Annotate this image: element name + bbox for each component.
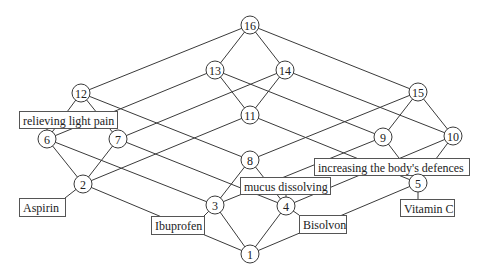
label-vitamin-c: Vitamin C bbox=[401, 200, 455, 217]
attribute-object-labels: relieving light painmucus dissolvingincr… bbox=[20, 112, 470, 235]
label-bisolvon: Bisolvon bbox=[300, 216, 347, 234]
node-14: 14 bbox=[276, 61, 294, 79]
node-2: 2 bbox=[74, 175, 92, 193]
edge-10-14 bbox=[285, 70, 453, 136]
node-label: 15 bbox=[412, 86, 424, 100]
node-label: 1 bbox=[247, 248, 253, 262]
node-5: 5 bbox=[409, 174, 427, 192]
node-9: 9 bbox=[374, 128, 392, 146]
node-11: 11 bbox=[241, 106, 259, 124]
label-increasing-defences: increasing the body's defences bbox=[315, 159, 470, 176]
node-label: 11 bbox=[244, 109, 256, 123]
label-relieving-light-pain: relieving light pain bbox=[20, 112, 118, 129]
node-8: 8 bbox=[241, 151, 259, 169]
edge-9-13 bbox=[215, 70, 383, 137]
concept-lattice-diagram: relieving light painmucus dissolvingincr… bbox=[0, 0, 489, 276]
node-label: 12 bbox=[75, 87, 87, 101]
node-label: 6 bbox=[44, 133, 50, 147]
label-text: Ibuprofen bbox=[155, 219, 202, 233]
node-label: 13 bbox=[209, 64, 221, 78]
node-15: 15 bbox=[409, 83, 427, 101]
node-label: 2 bbox=[80, 178, 86, 192]
node-1: 1 bbox=[241, 245, 259, 263]
node-4: 4 bbox=[277, 197, 295, 215]
edge-4-7 bbox=[118, 139, 286, 206]
node-12: 12 bbox=[72, 84, 90, 102]
node-label: 16 bbox=[244, 19, 256, 33]
node-label: 9 bbox=[380, 131, 386, 145]
node-16: 16 bbox=[241, 16, 259, 34]
label-text: relieving light pain bbox=[23, 114, 114, 128]
node-label: 7 bbox=[115, 133, 121, 147]
node-3: 3 bbox=[206, 196, 224, 214]
label-text: mucus dissolving bbox=[244, 180, 328, 194]
label-aspirin: Aspirin bbox=[20, 199, 66, 217]
node-6: 6 bbox=[38, 130, 56, 148]
node-10: 10 bbox=[444, 127, 462, 145]
node-13: 13 bbox=[206, 61, 224, 79]
label-text: Bisolvon bbox=[303, 218, 346, 232]
node-label: 8 bbox=[247, 154, 253, 168]
label-ibuprofen: Ibuprofen bbox=[152, 217, 205, 235]
node-label: 10 bbox=[447, 130, 459, 144]
edge-7-14 bbox=[118, 70, 285, 139]
node-7: 7 bbox=[109, 130, 127, 148]
label-mucus-dissolving: mucus dissolving bbox=[241, 178, 331, 195]
node-label: 4 bbox=[283, 200, 289, 214]
label-text: Aspirin bbox=[23, 201, 59, 215]
lattice-nodes: 12345678910111213141516 bbox=[38, 16, 462, 263]
node-label: 3 bbox=[212, 199, 218, 213]
label-text: increasing the body's defences bbox=[318, 161, 464, 175]
node-label: 14 bbox=[279, 64, 291, 78]
edge-3-6 bbox=[47, 139, 215, 205]
label-text: Vitamin C bbox=[404, 202, 454, 216]
node-label: 5 bbox=[415, 177, 421, 191]
